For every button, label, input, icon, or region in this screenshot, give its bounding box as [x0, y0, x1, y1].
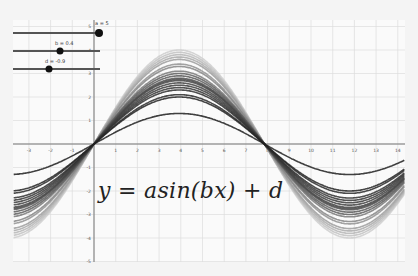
svg-text:12: 12 — [352, 148, 358, 153]
svg-text:1: 1 — [88, 118, 91, 123]
svg-text:6: 6 — [223, 148, 226, 153]
svg-text:-5: -5 — [87, 259, 92, 264]
svg-text:-1: -1 — [70, 148, 75, 153]
graph-canvas[interactable]: -3-2-11234567891011121314-5-4-3-2-112345… — [0, 0, 418, 276]
slider-d-label: d = -0.9 — [45, 58, 65, 64]
svg-text:-2: -2 — [87, 189, 92, 194]
svg-text:3: 3 — [158, 148, 161, 153]
slider-b-handle[interactable] — [57, 48, 64, 55]
svg-text:3: 3 — [88, 71, 91, 76]
svg-text:-2: -2 — [48, 148, 53, 153]
svg-text:-3: -3 — [87, 212, 92, 217]
slider-a-label: a = 5 — [95, 20, 109, 26]
svg-text:-4: -4 — [87, 236, 92, 241]
svg-text:4: 4 — [179, 148, 182, 153]
svg-text:9: 9 — [288, 148, 291, 153]
svg-text:7: 7 — [244, 148, 247, 153]
svg-text:5: 5 — [88, 24, 91, 29]
svg-text:5: 5 — [201, 148, 204, 153]
svg-text:1: 1 — [114, 148, 117, 153]
slider-a-handle[interactable] — [95, 29, 103, 37]
svg-text:2: 2 — [88, 95, 91, 100]
svg-text:2: 2 — [136, 148, 139, 153]
equation-label: y = asin(bx) + d — [98, 178, 283, 203]
svg-text:-1: -1 — [87, 165, 92, 170]
grid-lines — [13, 20, 405, 262]
svg-text:-3: -3 — [27, 148, 32, 153]
slider-d-handle[interactable] — [46, 66, 53, 73]
svg-text:14: 14 — [395, 148, 401, 153]
svg-text:13: 13 — [373, 148, 379, 153]
svg-text:11: 11 — [330, 148, 336, 153]
slider-b-label: b = 0.4 — [55, 40, 74, 46]
svg-text:10: 10 — [308, 148, 314, 153]
